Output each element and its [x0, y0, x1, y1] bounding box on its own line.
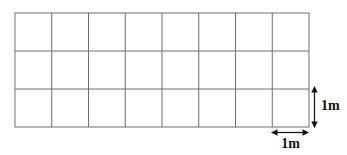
- height-dimension-label: 1m: [321, 99, 340, 113]
- width-dimension-label: 1m: [272, 137, 309, 151]
- height-dimension-arrow: [311, 86, 317, 128]
- unit-grid-figure: [0, 0, 347, 155]
- unit-grid: [15, 13, 309, 127]
- width-dimension-arrow: [271, 129, 309, 135]
- diagram-canvas: 1m 1m: [0, 0, 347, 155]
